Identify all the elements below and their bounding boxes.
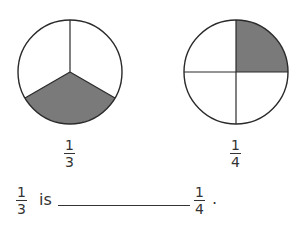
shaded-third (25, 72, 115, 124)
denominator: 3 (65, 156, 74, 169)
sentence-right-fraction: 1 4 (194, 186, 205, 216)
numerator: 1 (17, 186, 26, 199)
label-one-third: 1 3 (64, 139, 75, 169)
denominator: 4 (195, 203, 204, 216)
answer-blank[interactable] (58, 205, 190, 206)
numerator: 1 (65, 139, 74, 152)
sentence-word-is: is (39, 190, 52, 209)
circle-thirds (18, 20, 122, 124)
shaded-quarter (236, 20, 288, 72)
sentence-period: . (212, 189, 217, 208)
sentence-left-fraction: 1 3 (16, 186, 27, 216)
denominator: 4 (231, 156, 240, 169)
numerator: 1 (195, 186, 204, 199)
label-one-fourth: 1 4 (230, 139, 241, 169)
denominator: 3 (17, 203, 26, 216)
circle-quarters (184, 20, 288, 124)
numerator: 1 (231, 139, 240, 152)
